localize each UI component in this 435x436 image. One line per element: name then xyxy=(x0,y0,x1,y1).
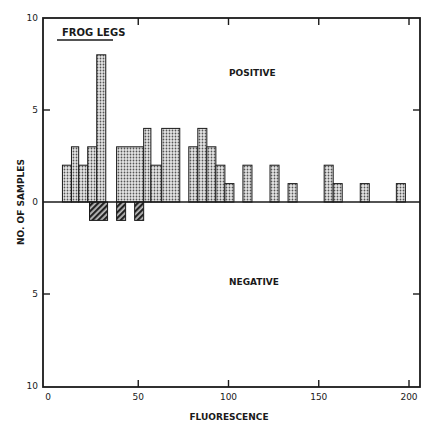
positive-bar xyxy=(198,128,207,202)
x-tick-label: 50 xyxy=(133,392,145,402)
positive-bar xyxy=(207,147,216,202)
positive-bar xyxy=(360,184,369,202)
y-tick-label: 5 xyxy=(32,105,38,115)
positive-bar xyxy=(117,147,144,202)
positive-bar xyxy=(151,165,162,202)
y-tick-label: 10 xyxy=(27,381,39,391)
positive-bar xyxy=(225,184,234,202)
negative-bar xyxy=(90,202,108,220)
positive-bar xyxy=(144,128,151,202)
x-tick-label: 100 xyxy=(220,392,237,402)
positive-bar xyxy=(88,147,97,202)
x-tick-label: 0 xyxy=(45,392,51,402)
axis-ticks: 0501001502001050510 xyxy=(27,13,420,402)
positive-region-label: POSITIVE xyxy=(229,68,276,78)
positive-bar xyxy=(97,55,106,202)
inset-label: FROG LEGS xyxy=(62,27,125,38)
y-tick-label: 0 xyxy=(32,197,38,207)
positive-bar xyxy=(324,165,333,202)
positive-bar xyxy=(333,184,342,202)
positive-bar xyxy=(216,165,225,202)
y-axis-label: NO. OF SAMPLES xyxy=(16,159,26,245)
positive-bar xyxy=(162,128,180,202)
x-axis-label: FLUORESCENCE xyxy=(189,412,268,422)
negative-bar xyxy=(117,202,126,220)
positive-bar xyxy=(270,165,279,202)
positive-bar xyxy=(243,165,252,202)
positive-bar xyxy=(62,165,71,202)
x-tick-label: 200 xyxy=(400,392,417,402)
histogram-chart: 0501001502001050510 FROG LEGS POSITIVE N… xyxy=(0,0,435,436)
negative-bar xyxy=(135,202,144,220)
positive-bar xyxy=(71,147,78,202)
positive-bar xyxy=(396,184,405,202)
positive-bar xyxy=(288,184,297,202)
positive-bar xyxy=(189,147,198,202)
positive-bar xyxy=(79,165,88,202)
y-tick-label: 10 xyxy=(27,13,39,23)
x-tick-label: 150 xyxy=(310,392,327,402)
negative-bars xyxy=(90,202,144,220)
negative-region-label: NEGATIVE xyxy=(229,277,279,287)
y-tick-label: 5 xyxy=(32,289,38,299)
